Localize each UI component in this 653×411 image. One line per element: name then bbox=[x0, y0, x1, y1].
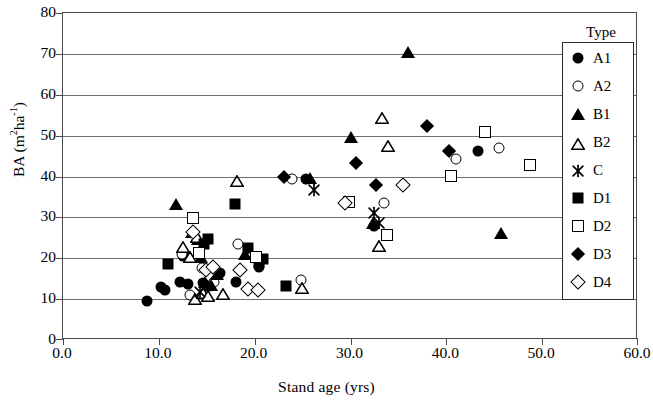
gridline-y-30 bbox=[63, 217, 636, 218]
x-tick-label-10: 10.0 bbox=[144, 345, 171, 361]
data-point-D4-2 bbox=[205, 259, 221, 275]
data-point-B2-4 bbox=[196, 285, 210, 297]
legend-marker-A2 bbox=[573, 81, 584, 92]
data-point-D2-1 bbox=[193, 247, 205, 259]
data-point-D2-7 bbox=[524, 159, 536, 171]
legend-marker-A1 bbox=[573, 53, 584, 64]
gridline-y-60 bbox=[63, 95, 636, 96]
data-point-A1-8 bbox=[215, 268, 226, 279]
gridline-y-40 bbox=[63, 177, 636, 178]
data-point-B2-9 bbox=[372, 238, 386, 250]
data-point-B2-7 bbox=[230, 173, 244, 185]
legend-label-D3: D3 bbox=[593, 240, 611, 268]
legend-item-D4[interactable]: D4 bbox=[563, 268, 635, 296]
data-point-D3-3 bbox=[420, 119, 434, 133]
data-point-D1-0 bbox=[163, 258, 174, 269]
legend-marker-D1 bbox=[573, 193, 584, 204]
legend-marker-D4 bbox=[570, 274, 586, 290]
data-point-D1-2 bbox=[202, 234, 213, 245]
plot-area bbox=[62, 12, 637, 339]
data-point-B1-10 bbox=[366, 217, 380, 229]
data-point-A2-7 bbox=[379, 197, 390, 208]
data-point-B2-8 bbox=[295, 280, 309, 292]
data-point-D1-1 bbox=[198, 239, 209, 250]
y-tick-label-40: 40 bbox=[41, 168, 57, 184]
y-tick-0 bbox=[56, 339, 63, 340]
data-point-D4-6 bbox=[337, 195, 353, 211]
data-point-A1-4 bbox=[177, 250, 188, 261]
data-point-A1-6 bbox=[197, 277, 208, 288]
data-point-B2-6 bbox=[216, 286, 230, 298]
y-axis-title-end: ) bbox=[10, 102, 27, 107]
y-tick-label-60: 60 bbox=[41, 86, 57, 102]
legend-label-D4: D4 bbox=[593, 268, 611, 296]
legend-item-B2[interactable]: B2 bbox=[563, 128, 635, 156]
data-point-A1-13 bbox=[472, 146, 483, 157]
legend-label-B2: B2 bbox=[593, 128, 611, 156]
x-tick-label-40: 40.0 bbox=[432, 345, 459, 361]
data-point-B2-10 bbox=[375, 110, 389, 122]
data-point-D1-6 bbox=[258, 254, 269, 265]
data-point-B2-0 bbox=[176, 239, 190, 251]
data-point-B2-1 bbox=[183, 249, 197, 261]
data-point-D1-3 bbox=[229, 199, 240, 210]
x-axis-tick-labels: 0.010.020.030.040.050.060.0 bbox=[62, 345, 637, 367]
legend-label-C: C bbox=[593, 156, 603, 184]
legend-label-A2: A2 bbox=[593, 72, 611, 100]
data-point-A1-10 bbox=[254, 261, 265, 272]
legend-item-D1[interactable]: D1 bbox=[563, 184, 635, 212]
legend-item-D2[interactable]: D2 bbox=[563, 212, 635, 240]
legend-item-A1[interactable]: A1 bbox=[563, 44, 635, 72]
data-point-A2-3 bbox=[209, 276, 220, 287]
y-tick-label-10: 10 bbox=[41, 290, 57, 306]
data-point-A1-9 bbox=[230, 276, 241, 287]
data-point-C-0 bbox=[194, 284, 207, 297]
data-point-A2-4 bbox=[233, 238, 244, 249]
data-point-B2-11 bbox=[381, 138, 395, 150]
legend-item-B1[interactable]: B1 bbox=[563, 100, 635, 128]
data-point-B1-8 bbox=[303, 172, 317, 184]
legend-marker-B2 bbox=[571, 136, 585, 148]
data-point-D3-4 bbox=[442, 144, 456, 158]
legend-box: A1A2B1B2CD1D2D3D4 bbox=[562, 42, 634, 300]
legend-item-C[interactable]: C bbox=[563, 156, 635, 184]
data-point-C-2 bbox=[367, 205, 380, 218]
data-point-D4-3 bbox=[233, 262, 249, 278]
y-axis-title-exp-2: 2 bbox=[8, 130, 19, 135]
y-axis-title-mid: ha bbox=[10, 116, 27, 131]
y-tick-20 bbox=[56, 258, 63, 259]
data-point-A1-0 bbox=[142, 295, 153, 306]
chart-root: 01020304050607080 0.010.020.030.040.050.… bbox=[0, 0, 653, 411]
data-point-D1-7 bbox=[281, 281, 292, 292]
data-point-D4-7 bbox=[395, 178, 411, 194]
data-point-D3-2 bbox=[369, 178, 383, 192]
data-point-B1-4 bbox=[198, 276, 212, 288]
legend-item-D3[interactable]: D3 bbox=[563, 240, 635, 268]
y-tick-label-80: 80 bbox=[41, 4, 57, 20]
data-point-A1-1 bbox=[155, 281, 166, 292]
y-axis-title-main: BA (m bbox=[10, 135, 27, 177]
data-point-B1-1 bbox=[185, 226, 199, 238]
y-tick-40 bbox=[56, 177, 63, 178]
data-point-D4-5 bbox=[250, 282, 266, 298]
y-axis-title: BA (m2ha-1) bbox=[8, 70, 27, 210]
legend-label-D1: D1 bbox=[593, 184, 611, 212]
y-axis-title-exp-neg1: -1 bbox=[8, 107, 19, 115]
data-point-B1-5 bbox=[204, 279, 218, 291]
y-tick-50 bbox=[56, 136, 63, 137]
x-tick-label-60: 60.0 bbox=[623, 345, 650, 361]
y-tick-label-20: 20 bbox=[41, 250, 57, 266]
x-tick-label-50: 50.0 bbox=[528, 345, 555, 361]
data-point-A1-2 bbox=[159, 285, 170, 296]
legend-marker-B1 bbox=[571, 108, 585, 120]
data-point-D4-0 bbox=[186, 225, 202, 241]
data-point-C-1 bbox=[308, 182, 321, 195]
data-point-D2-3 bbox=[343, 196, 355, 208]
data-point-A2-5 bbox=[287, 174, 298, 185]
legend-label-D2: D2 bbox=[593, 212, 611, 240]
legend-item-A2[interactable]: A2 bbox=[563, 72, 635, 100]
x-tick-label-30: 30.0 bbox=[336, 345, 363, 361]
data-point-B1-2 bbox=[191, 233, 205, 245]
data-point-D2-4 bbox=[381, 229, 393, 241]
data-point-B2-2 bbox=[188, 291, 202, 303]
